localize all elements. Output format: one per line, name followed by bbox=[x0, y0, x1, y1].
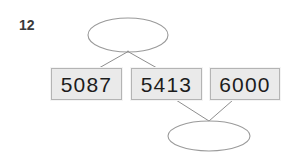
connector-card-5413-to-bottom-ellipse bbox=[176, 100, 209, 121]
diagram-page: 12 5087 5413 6000 bbox=[0, 0, 294, 163]
top-ellipse bbox=[88, 18, 168, 52]
number-card-1-value: 5087 bbox=[61, 74, 113, 95]
connector-card-6000-to-bottom-ellipse bbox=[209, 100, 233, 121]
number-card-3-value: 6000 bbox=[219, 74, 271, 95]
number-card-1[interactable]: 5087 bbox=[51, 68, 122, 100]
number-card-2-value: 5413 bbox=[141, 74, 193, 95]
connector-top-ellipse-to-card-5087 bbox=[99, 51, 129, 68]
number-card-2[interactable]: 5413 bbox=[131, 68, 202, 100]
number-card-3[interactable]: 6000 bbox=[210, 68, 280, 100]
connector-top-ellipse-to-card-5413 bbox=[127, 51, 157, 68]
bottom-ellipse bbox=[168, 121, 250, 151]
